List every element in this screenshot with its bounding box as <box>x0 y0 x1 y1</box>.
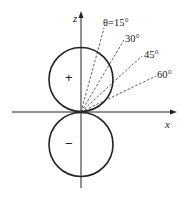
angle-line-15 <box>81 28 104 112</box>
x-axis-label: x <box>164 118 170 130</box>
angle-label-15: θ=15° <box>103 17 129 28</box>
angle-line-60 <box>81 76 156 112</box>
plus-sign: + <box>65 70 73 85</box>
angle-label-60: 60° <box>157 69 172 80</box>
angle-line-45 <box>81 56 142 112</box>
z-axis-arrow-icon <box>79 11 84 18</box>
x-axis-arrow-icon <box>170 110 177 115</box>
minus-sign: − <box>65 136 73 151</box>
dipole-diagram: z x θ=15° 30° 45° 60° + − <box>0 0 187 201</box>
angle-line-30 <box>81 40 124 112</box>
angle-label-45: 45° <box>144 49 159 60</box>
angle-label-30: 30° <box>125 33 140 44</box>
z-axis-label: z <box>72 12 78 24</box>
